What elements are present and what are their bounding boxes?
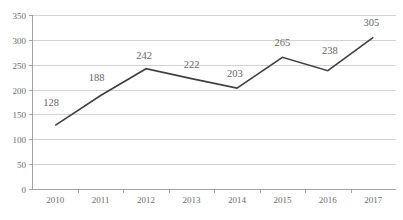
data-point-label: 305 <box>363 17 379 28</box>
x-axis-tick-label: 2013 <box>183 195 202 205</box>
x-axis-tick-label: 2012 <box>137 195 155 205</box>
x-axis-tick-label: 2017 <box>364 195 383 205</box>
y-axis-tick-label: 350 <box>13 11 27 21</box>
x-axis-tick-label: 2011 <box>92 195 110 205</box>
x-axis-tick-label: 2016 <box>319 195 338 205</box>
x-axis-tick-label: 2014 <box>228 195 247 205</box>
y-axis-tick-label: 300 <box>13 36 27 46</box>
y-axis-tick-label: 50 <box>17 160 27 170</box>
data-point-labels: 128188242222203265238305 <box>43 17 379 108</box>
chart-canvas: 050100150200250300350 201020112012201320… <box>0 0 403 220</box>
y-axis-tick-label: 100 <box>13 135 27 145</box>
gridlines <box>33 16 397 165</box>
y-axis-tick-label: 150 <box>13 110 27 120</box>
x-axis-tick-labels: 20102011201220132014201520162017 <box>46 195 383 205</box>
x-axis-tick-label: 2015 <box>273 195 292 205</box>
data-point-label: 265 <box>275 37 291 48</box>
y-axis-tick-label: 0 <box>22 185 27 195</box>
y-axis-tick-marks <box>29 16 33 190</box>
data-point-label: 188 <box>89 72 105 83</box>
y-axis-tick-label: 200 <box>13 86 27 96</box>
data-point-label: 128 <box>43 97 59 108</box>
data-point-label: 238 <box>322 45 338 56</box>
data-point-label: 203 <box>227 68 243 79</box>
y-axis-tick-label: 250 <box>13 61 27 71</box>
line-chart: 050100150200250300350 201020112012201320… <box>0 0 403 220</box>
y-axis-tick-labels: 050100150200250300350 <box>13 11 27 195</box>
data-point-label: 222 <box>184 59 200 70</box>
data-point-label: 242 <box>136 50 152 61</box>
x-axis-tick-label: 2010 <box>46 195 65 205</box>
